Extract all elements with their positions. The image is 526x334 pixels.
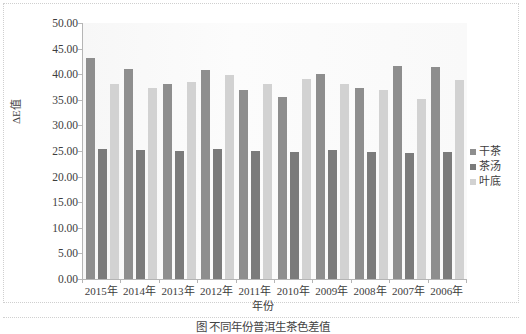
y-axis-tick (78, 74, 82, 75)
bar-group (390, 23, 428, 279)
y-axis-title: ΔE值 (10, 104, 22, 124)
bar-叶底[interactable] (379, 90, 388, 279)
x-axis-tick-label: 2014年 (120, 285, 158, 298)
bar-叶底[interactable] (302, 79, 311, 279)
bar-茶汤[interactable] (175, 151, 184, 279)
bar-叶底[interactable] (340, 84, 349, 279)
bar-叶底[interactable] (263, 84, 272, 279)
y-axis-tick (78, 23, 82, 24)
y-axis-tick-label: 30.00 (30, 119, 78, 131)
x-axis-tick-label: 2012年 (197, 285, 235, 298)
y-axis-tick (78, 253, 82, 254)
bar-干茶[interactable] (355, 88, 364, 279)
bar-茶汤[interactable] (367, 152, 376, 279)
y-axis-tick (78, 49, 82, 50)
bar-茶汤[interactable] (136, 150, 145, 279)
y-axis-tick-labels: 50.0045.0040.0035.0030.0025.0020.0015.00… (30, 16, 78, 286)
bar-叶底[interactable] (148, 88, 157, 279)
bar-茶汤[interactable] (443, 152, 452, 279)
legend-swatch-icon (470, 149, 476, 155)
bar-group (237, 23, 275, 279)
x-axis-tick-label: 2007年 (389, 285, 427, 298)
figure-container: ΔE值 50.0045.0040.0035.0030.0025.0020.001… (0, 0, 526, 334)
x-axis-tick (159, 279, 160, 283)
legend-swatch-icon (470, 164, 476, 170)
bar-叶底[interactable] (455, 80, 464, 279)
y-axis-tick-label: 20.00 (30, 171, 78, 183)
x-axis-ticks (82, 279, 467, 284)
legend-item-叶底[interactable]: 叶底 (470, 174, 524, 189)
x-axis-tick (82, 279, 83, 283)
bar-group (313, 23, 351, 279)
bar-叶底[interactable] (225, 75, 234, 279)
bar-group (429, 23, 467, 279)
x-axis-tick-labels: 2015年2014年2013年2012年2011年2010年2009年2008年… (82, 285, 466, 298)
x-axis-tick (428, 279, 429, 283)
y-axis-tick (78, 279, 82, 280)
legend-item-茶汤[interactable]: 茶汤 (470, 159, 524, 174)
bar-干茶[interactable] (431, 67, 440, 279)
bar-groups (83, 23, 467, 279)
bar-干茶[interactable] (278, 97, 287, 279)
bar-group (83, 23, 121, 279)
x-axis-tick (120, 279, 121, 283)
figure-caption: 图 不同年份普洱生茶色差值 (0, 320, 526, 334)
y-axis-tick-label: 0.00 (30, 273, 78, 285)
bar-group (198, 23, 236, 279)
x-axis-tick (274, 279, 275, 283)
bar-干茶[interactable] (163, 84, 172, 279)
x-axis-tick (351, 279, 352, 283)
plot-area (82, 23, 467, 280)
bar-group (121, 23, 159, 279)
y-axis-tick-label: 35.00 (30, 94, 78, 106)
y-axis-tick-label: 10.00 (30, 222, 78, 234)
y-axis-tick-label: 5.00 (30, 247, 78, 259)
x-axis-title: 年份 (0, 300, 526, 313)
bar-group (352, 23, 390, 279)
x-axis-tick-label: 2010年 (274, 285, 312, 298)
x-axis-tick (312, 279, 313, 283)
bar-group (275, 23, 313, 279)
legend-swatch-icon (470, 179, 476, 185)
caption-divider (3, 317, 519, 318)
bar-叶底[interactable] (187, 82, 196, 279)
x-axis-tick (466, 279, 467, 283)
x-axis-tick-label: 2006年 (428, 285, 466, 298)
bar-干茶[interactable] (239, 90, 248, 279)
bar-茶汤[interactable] (328, 150, 337, 279)
bar-chart: ΔE值 50.0045.0040.0035.0030.0025.0020.001… (0, 0, 526, 305)
bar-干茶[interactable] (393, 66, 402, 280)
bar-干茶[interactable] (201, 70, 210, 279)
bar-干茶[interactable] (316, 74, 325, 279)
bar-叶底[interactable] (110, 84, 119, 279)
x-axis-tick-label: 2011年 (236, 285, 274, 298)
x-axis-tick (389, 279, 390, 283)
bar-group (160, 23, 198, 279)
x-axis-tick-label: 2013年 (159, 285, 197, 298)
y-axis-tick-label: 50.00 (30, 17, 78, 29)
legend-label: 茶汤 (479, 159, 501, 174)
y-axis-tick-label: 45.00 (30, 43, 78, 55)
legend-label: 干茶 (479, 144, 501, 159)
x-axis-tick-label: 2015年 (82, 285, 120, 298)
legend-item-干茶[interactable]: 干茶 (470, 144, 524, 159)
bar-茶汤[interactable] (213, 149, 222, 279)
y-axis-tick (78, 100, 82, 101)
y-axis-tick (78, 177, 82, 178)
bar-茶汤[interactable] (98, 149, 107, 279)
y-axis-tick (78, 228, 82, 229)
bar-干茶[interactable] (86, 58, 95, 279)
chart-legend: 干茶茶汤叶底 (470, 144, 524, 189)
y-axis-tick (78, 151, 82, 152)
bar-叶底[interactable] (417, 99, 426, 279)
y-axis-tick-label: 25.00 (30, 145, 78, 157)
bar-干茶[interactable] (124, 69, 133, 279)
y-axis-tick (78, 125, 82, 126)
bar-茶汤[interactable] (405, 153, 414, 279)
y-axis-tick (78, 202, 82, 203)
x-axis-tick-label: 2009年 (312, 285, 350, 298)
x-axis-tick-label: 2008年 (351, 285, 389, 298)
bar-茶汤[interactable] (290, 152, 299, 279)
bar-茶汤[interactable] (251, 151, 260, 280)
x-axis-tick (197, 279, 198, 283)
